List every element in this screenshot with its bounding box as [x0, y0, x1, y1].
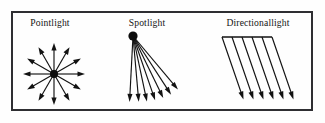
directionallight-ray-0-head [239, 91, 244, 99]
pointlight-ray-4-head [39, 93, 45, 101]
diagram-canvas: Pointlight Spotlight Directionallight [0, 0, 325, 123]
spotlight-label: Spotlight [129, 17, 166, 28]
directionallight-ray-2-head [259, 91, 264, 99]
directionallight-ray-group [222, 37, 293, 99]
directionallight-ray-5-head [289, 91, 294, 99]
pointlight-ray-2-head [63, 93, 69, 101]
pointlight-ray-6-head [23, 71, 31, 76]
pointlight-ray-10-head [63, 47, 69, 55]
directionallight-ray-3-head [269, 91, 274, 99]
pointlight-ray-5-head [27, 83, 35, 89]
spotlight-ray-6-head [127, 94, 132, 102]
panel-pointlight: Pointlight [23, 17, 85, 105]
directionallight-ray-4-head [279, 91, 284, 99]
directionallight-ray-1-shaft [232, 37, 252, 94]
pointlight-ray-7-head [27, 59, 35, 65]
spotlight-ray-1-head [165, 87, 171, 95]
directionallight-ray-3-shaft [252, 37, 272, 94]
spotlight-ray-5-head [136, 94, 141, 102]
spotlight-source-dot [128, 31, 137, 40]
pointlight-ray-1-head [73, 83, 81, 89]
panel-directionallight: Directionallight [222, 17, 293, 99]
spotlight-ray-6-shaft [130, 36, 133, 96]
directionallight-ray-0-shaft [222, 37, 242, 94]
pointlight-label: Pointlight [30, 17, 70, 28]
pointlight-ray-8-head [39, 47, 45, 55]
spotlight-ray-4-head [143, 93, 148, 101]
pointlight-source-dot [50, 70, 58, 78]
panel-spotlight: Spotlight [127, 17, 178, 102]
spotlight-ray-2-head [157, 90, 163, 98]
directionallight-ray-4-shaft [262, 37, 282, 94]
pointlight-ray-0-head [78, 71, 86, 76]
light-types-figure: Pointlight Spotlight Directionallight [0, 0, 325, 123]
spotlight-ray-group [127, 36, 178, 102]
pointlight-ray-11-head [73, 59, 81, 65]
spotlight-ray-3-head [150, 92, 155, 100]
directionallight-ray-5-shaft [272, 37, 292, 94]
directionallight-label: Directionallight [226, 17, 289, 28]
directionallight-ray-1-head [249, 91, 254, 99]
directionallight-ray-2-shaft [242, 37, 262, 94]
pointlight-ray-9-head [51, 43, 56, 51]
pointlight-ray-3-head [51, 98, 56, 106]
